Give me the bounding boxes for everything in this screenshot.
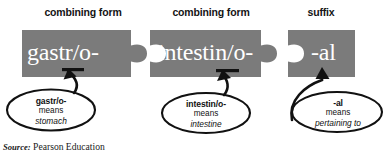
- column-label-suffix: suffix: [288, 6, 354, 18]
- source-label: Source:: [3, 142, 31, 152]
- callout-means-intestino: means: [163, 110, 249, 118]
- callout-means-al: means: [294, 109, 382, 117]
- piece-word-al: -al: [311, 40, 336, 64]
- callout-definition-al: pertaining to: [294, 119, 382, 128]
- callout-term-intestino: intestin/o-: [163, 100, 249, 109]
- piece-word-intestino: intestin/o-: [158, 40, 253, 64]
- callout-text-al: -al means pertaining to: [294, 99, 382, 128]
- piece-word-gastro: gastr/o-: [27, 40, 99, 64]
- callout-leader-intestino: [222, 74, 228, 95]
- column-label-combining-form-2: combining form: [150, 6, 272, 18]
- puzzle-diagram: [0, 0, 388, 159]
- callout-definition-intestino: intestine: [163, 120, 249, 129]
- figure-canvas: combining form combining form suffix gas…: [0, 0, 388, 159]
- source-publisher: Pearson Education: [31, 141, 105, 152]
- callout-definition-gastro: stomach: [8, 117, 94, 126]
- source-credit: Source: Pearson Education: [3, 141, 105, 152]
- column-label-combining-form-1: combining form: [22, 6, 144, 18]
- callout-term-al: -al: [294, 99, 382, 108]
- callout-means-gastro: means: [8, 107, 94, 115]
- callout-text-gastro: gastr/o- means stomach: [8, 97, 94, 126]
- callout-term-gastro: gastr/o-: [8, 97, 94, 106]
- callout-text-intestino: intestin/o- means intestine: [163, 100, 249, 129]
